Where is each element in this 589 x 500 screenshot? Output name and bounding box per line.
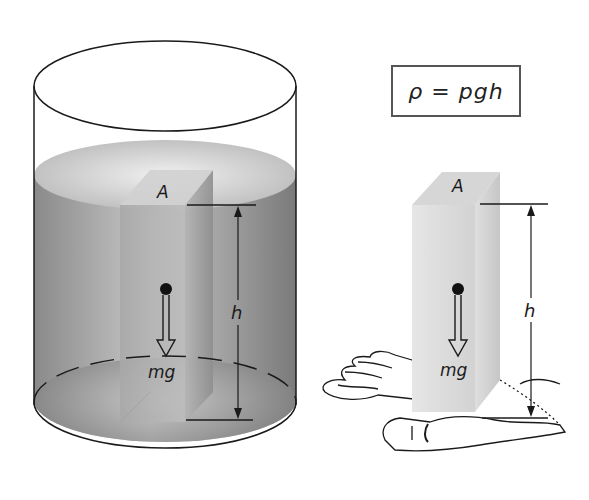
- arrow-up-icon: [527, 205, 535, 216]
- cylinder-container: [34, 41, 296, 448]
- arrow-down-icon: [527, 406, 535, 417]
- cylinder-rim: [34, 41, 296, 131]
- formula-box: ρ = pgh: [391, 65, 521, 117]
- height-label-right: h: [524, 300, 535, 321]
- height-label-left: h: [231, 302, 242, 323]
- fluid-block-left: [120, 170, 213, 422]
- area-label-left: A: [156, 182, 169, 202]
- weight-label-left: mg: [148, 362, 176, 382]
- center-of-mass-dot: [160, 283, 172, 295]
- formula-text: ρ = pgh: [408, 79, 503, 104]
- center-of-mass-dot: [452, 283, 464, 295]
- area-label-right: A: [451, 176, 464, 196]
- weight-label-right: mg: [440, 360, 468, 380]
